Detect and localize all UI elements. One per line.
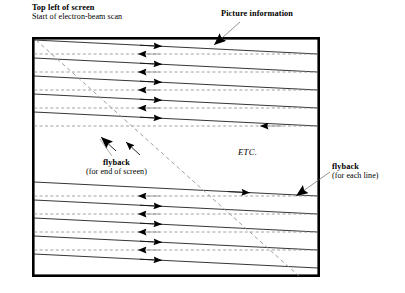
screen-outline xyxy=(33,38,318,275)
label-top-left-of-screen: Top left of screen Start of electron-bea… xyxy=(32,3,122,21)
label-flyback-end-of-screen: flyback (for end of screen) xyxy=(86,158,147,176)
label-top-left-plain: Start of electron-beam scan xyxy=(32,12,122,21)
raster-scan-diagram xyxy=(0,0,405,293)
label-top-left-bold: Top left of screen xyxy=(32,3,122,12)
label-flyback-end-of-screen-bold: flyback xyxy=(86,158,147,167)
figure-canvas: Top left of screen Start of electron-bea… xyxy=(0,0,405,293)
label-etc-text: ETC. xyxy=(238,148,257,158)
label-picture-information-text: Picture information xyxy=(221,9,293,18)
label-flyback-each-line: flyback (for each line) xyxy=(332,162,379,180)
label-flyback-each-line-bold: flyback xyxy=(332,162,379,171)
label-picture-information: Picture information xyxy=(221,9,293,18)
label-flyback-end-of-screen-plain: (for end of screen) xyxy=(86,167,147,176)
label-flyback-each-line-plain: (for each line) xyxy=(332,171,379,180)
label-etc: ETC. xyxy=(238,148,257,158)
